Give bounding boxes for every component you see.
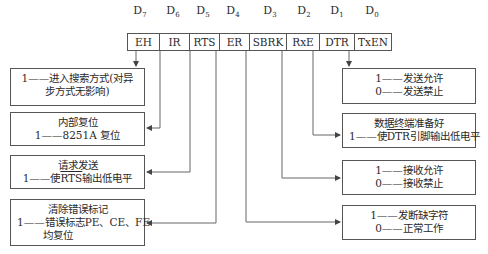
sbrk-line-1: 1——发断缺字符 xyxy=(349,209,469,222)
txen-line-2: 0——发送禁止 xyxy=(349,85,469,98)
txen-line-1: 1——发送允许 xyxy=(349,72,469,85)
rts-line-prefix: 1——使 xyxy=(23,172,61,184)
dtr-line-prefix: 1——使 xyxy=(349,130,387,142)
rxe-line-2: 0——接收禁止 xyxy=(349,177,469,190)
eh-line-2: 步方式无影响) xyxy=(17,85,138,98)
er-description-box: 清除错误标记 1——错误标志PE、CE、FE 均复位 xyxy=(10,199,145,246)
dtr-line-suffix: 引脚输出低电平 xyxy=(410,130,480,142)
er-title: 清除错误标记 xyxy=(17,203,138,216)
rxe-description-box: 1——接收允许 0——接收禁止 xyxy=(342,160,476,195)
txen-description-box: 1——发送允许 0——发送禁止 xyxy=(342,68,476,104)
rts-signal: RTS xyxy=(60,172,82,184)
rts-title: 请求发送 xyxy=(17,159,138,172)
ir-line-1: 1——8251A 复位 xyxy=(17,129,138,142)
eh-line-1: 1——进入搜索方式(对异 xyxy=(17,72,138,85)
dtr-description-box: 数据终端准备好 1——使DTR引脚输出低电平 xyxy=(342,113,476,148)
eh-description-box: 1——进入搜索方式(对异 步方式无影响) xyxy=(10,68,145,106)
sbrk-line-2: 0——正常工作 xyxy=(349,222,469,235)
er-line-1: 1——错误标志PE、CE、FE xyxy=(17,216,138,229)
dtr-signal: DTR xyxy=(387,130,410,142)
rts-description-box: 请求发送 1——使RTS输出低电平 xyxy=(10,155,145,189)
dtr-line-1: 1——使DTR引脚输出低电平 xyxy=(349,130,469,143)
rxe-line-1: 1——接收允许 xyxy=(349,164,469,177)
rts-line-1: 1——使RTS输出低电平 xyxy=(17,172,138,185)
sbrk-description-box: 1——发断缺字符 0——正常工作 xyxy=(342,205,476,240)
ir-description-box: 内部复位 1——8251A 复位 xyxy=(10,112,145,146)
ir-title: 内部复位 xyxy=(17,116,138,129)
er-line-2: 均复位 xyxy=(17,229,138,242)
rts-line-suffix: 输出低电平 xyxy=(82,172,132,184)
dtr-title: 数据终端准备好 xyxy=(349,117,469,130)
